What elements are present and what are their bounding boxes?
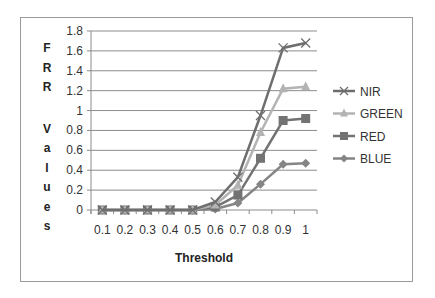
line-chart: 00.20.40.60.811.21.41.61.80.10.20.30.40.… bbox=[0, 0, 435, 298]
square-marker bbox=[256, 154, 265, 163]
legend-label: NIR bbox=[360, 85, 381, 99]
x-tick-label: 0.6 bbox=[207, 223, 224, 237]
x-tick-label: 0.3 bbox=[139, 223, 156, 237]
y-tick-label: 0.2 bbox=[66, 183, 83, 197]
legend-label: RED bbox=[360, 130, 386, 144]
y-axis-title-letter: e bbox=[44, 200, 51, 214]
x-axis-title: Threshold bbox=[175, 251, 233, 265]
series-line bbox=[102, 43, 305, 210]
legend-label: GREEN bbox=[360, 107, 403, 121]
triangle-marker bbox=[301, 81, 310, 90]
legend-item-blue: BLUE bbox=[333, 152, 391, 166]
series-red bbox=[98, 114, 310, 214]
x-tick-label: 0.5 bbox=[184, 223, 201, 237]
x-tick-label: 1 bbox=[302, 223, 309, 237]
y-tick-label: 1.2 bbox=[66, 84, 83, 98]
y-tick-label: 1.8 bbox=[66, 24, 83, 38]
series-line bbox=[102, 119, 305, 210]
series-line bbox=[102, 87, 305, 210]
y-tick-label: 1.6 bbox=[66, 44, 83, 58]
x-tick-label: 0.8 bbox=[252, 223, 269, 237]
legend-label: BLUE bbox=[360, 152, 391, 166]
diamond-marker bbox=[301, 159, 310, 168]
legend-item-red: RED bbox=[333, 130, 386, 144]
y-axis-title-letter: a bbox=[44, 141, 51, 155]
square-marker bbox=[340, 132, 348, 140]
y-tick-label: 0.4 bbox=[66, 163, 83, 177]
y-tick-label: 0.6 bbox=[66, 143, 83, 157]
diamond-marker bbox=[340, 155, 348, 163]
series-green bbox=[98, 81, 310, 213]
x-tick-label: 0.9 bbox=[275, 223, 292, 237]
y-tick-label: 0.8 bbox=[66, 123, 83, 137]
y-axis-title-letter: R bbox=[43, 61, 52, 75]
y-axis-title-letter: R bbox=[43, 80, 52, 94]
x-tick-label: 0.1 bbox=[94, 223, 111, 237]
legend-item-green: GREEN bbox=[333, 107, 403, 121]
y-axis-title-letter: V bbox=[43, 122, 51, 136]
y-axis-title-letter: l bbox=[45, 161, 48, 175]
square-marker bbox=[279, 116, 288, 125]
y-tick-label: 1 bbox=[76, 104, 83, 118]
legend-item-nir: NIR bbox=[333, 85, 381, 99]
y-tick-label: 0 bbox=[76, 203, 83, 217]
square-marker bbox=[233, 191, 242, 200]
square-marker bbox=[301, 114, 310, 123]
legend: NIRGREENREDBLUE bbox=[333, 85, 403, 167]
x-tick-label: 0.4 bbox=[162, 223, 179, 237]
y-axis-title-letter: F bbox=[43, 41, 50, 55]
x-tick-label: 0.2 bbox=[117, 223, 134, 237]
y-tick-label: 1.4 bbox=[66, 64, 83, 78]
x-tick-label: 0.7 bbox=[230, 223, 247, 237]
y-axis-title-letter: u bbox=[43, 180, 50, 194]
y-axis-title-letter: s bbox=[44, 219, 51, 233]
